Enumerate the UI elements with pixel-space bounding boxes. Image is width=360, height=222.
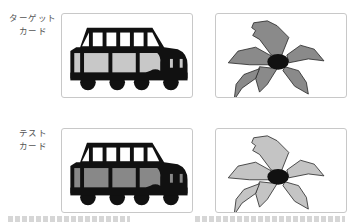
target-card-car	[61, 13, 193, 98]
target-card-flower	[215, 13, 347, 98]
target-card-label: ターゲット カード	[6, 12, 60, 38]
test-card-car	[61, 128, 193, 213]
flower-icon	[216, 14, 346, 97]
test-card-label-line2: カード	[6, 140, 60, 153]
target-card-label-line1: ターゲット	[6, 12, 60, 25]
test-card-flower	[215, 128, 347, 213]
car-icon	[62, 129, 192, 212]
flower-icon	[216, 129, 346, 212]
test-card-label-line1: テスト	[6, 127, 60, 140]
cut-off-caption	[8, 216, 130, 222]
car-icon	[62, 14, 192, 97]
test-card-label: テスト カード	[6, 127, 60, 153]
cut-off-caption	[195, 216, 345, 222]
target-card-label-line2: カード	[6, 25, 60, 38]
